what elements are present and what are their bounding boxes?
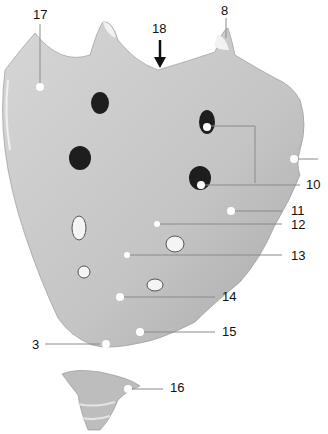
sacrum-body	[3, 22, 305, 347]
foramen-4-right	[147, 279, 163, 291]
label-8: 8	[221, 4, 228, 18]
label-11: 11	[291, 204, 305, 218]
foramen-2-left	[69, 146, 91, 170]
coccyx	[62, 370, 140, 430]
foramen-3-right	[166, 236, 184, 252]
label-3: 3	[32, 338, 39, 352]
label-14: 14	[222, 290, 236, 304]
label-10: 10	[306, 178, 320, 192]
label-18: 18	[152, 22, 166, 36]
sacrum-drawing	[0, 0, 328, 434]
foramen-4-left	[78, 266, 90, 278]
label-16: 16	[170, 381, 184, 395]
label-17: 17	[33, 8, 47, 22]
foramen-1-left	[91, 92, 109, 114]
label-15: 15	[222, 325, 236, 339]
foramen-3-left	[72, 216, 86, 240]
arrow-down-icon	[154, 40, 166, 68]
label-13: 13	[291, 249, 305, 263]
label-12: 12	[291, 218, 305, 232]
sacrum-illustration: 17 18 8 10 11 12 13 14 15 3 16	[0, 0, 328, 434]
